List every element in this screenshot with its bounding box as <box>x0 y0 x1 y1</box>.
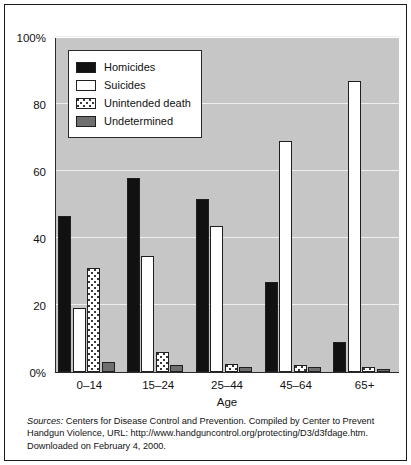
bar-unintended-0-14 <box>87 268 100 372</box>
bar-unintended-15-24 <box>156 352 169 372</box>
gridline-100 <box>56 36 399 37</box>
legend-swatch-suicides <box>76 80 96 91</box>
plot-area: Homicides Suicides Unintended death Unde… <box>55 38 399 373</box>
bar-unintended-25-44 <box>225 364 238 372</box>
x-axis-title: Age <box>55 396 399 408</box>
legend-item-undetermined: Undetermined <box>76 112 191 130</box>
y-axis-tick-label-80: 80 <box>0 99 46 111</box>
x-axis-tick-label-0-14: 0–14 <box>77 379 103 391</box>
plot-wrapper: Homicides Suicides Unintended death Unde… <box>55 38 399 373</box>
bar-homicides-0-14 <box>58 216 71 372</box>
source-line-1: Centers for Disease Control and Preventi… <box>63 416 374 426</box>
y-axis-tick-label-20: 20 <box>0 300 46 312</box>
chart-legend: Homicides Suicides Unintended death Unde… <box>68 50 202 138</box>
legend-label-homicides: Homicides <box>104 61 155 73</box>
source-note: Sources: Centers for Disease Control and… <box>27 415 382 452</box>
chart-figure: 0%20406080100% Homicides Suicides Uninte… <box>0 0 411 465</box>
bar-homicides-65+ <box>333 342 346 372</box>
bar-suicides-65+ <box>348 81 361 372</box>
source-line-3: Downloaded on February 4, 2000. <box>27 441 166 451</box>
legend-swatch-undetermined <box>76 116 96 127</box>
bar-suicides-25-44 <box>210 226 223 372</box>
y-axis-tick-label-0: 0% <box>0 367 46 379</box>
legend-label-undetermined: Undetermined <box>104 115 173 127</box>
y-axis-tick-label-40: 40 <box>0 233 46 245</box>
bar-group-65+ <box>333 38 390 372</box>
bar-homicides-45-64 <box>265 282 278 372</box>
legend-item-unintended-death: Unintended death <box>76 94 191 112</box>
source-line-2: Handgun Violence, URL: http://www.handgu… <box>27 428 368 438</box>
bar-unintended-45-64 <box>294 365 307 372</box>
bar-suicides-45-64 <box>279 141 292 372</box>
bar-group-45-64 <box>265 38 322 372</box>
bar-homicides-15-24 <box>127 178 140 372</box>
bar-undetermined-65+ <box>377 369 390 372</box>
bar-homicides-25-44 <box>196 199 209 372</box>
legend-swatch-unintended-death <box>76 98 96 109</box>
x-axis-tick-label-15-24: 15–24 <box>142 379 174 391</box>
bar-undetermined-25-44 <box>239 367 252 372</box>
bar-suicides-15-24 <box>141 256 154 372</box>
x-axis-tick-label-25-44: 25–44 <box>211 379 243 391</box>
source-label: Sources: <box>27 416 63 426</box>
legend-item-suicides: Suicides <box>76 76 191 94</box>
y-axis-tick-label-60: 60 <box>0 166 46 178</box>
bar-unintended-65+ <box>362 367 375 372</box>
y-axis-tick-label-100: 100% <box>0 32 46 44</box>
bar-group-25-44 <box>196 38 253 372</box>
legend-swatch-homicides <box>76 62 96 73</box>
legend-item-homicides: Homicides <box>76 58 191 76</box>
bar-undetermined-45-64 <box>308 367 321 372</box>
legend-label-unintended-death: Unintended death <box>104 97 191 109</box>
bar-undetermined-15-24 <box>170 365 183 372</box>
x-axis-tick-label-65+: 65+ <box>355 379 375 391</box>
x-axis-tick-label-45-64: 45–64 <box>280 379 312 391</box>
bar-suicides-0-14 <box>73 308 86 372</box>
bar-undetermined-0-14 <box>102 362 115 372</box>
legend-label-suicides: Suicides <box>104 79 146 91</box>
